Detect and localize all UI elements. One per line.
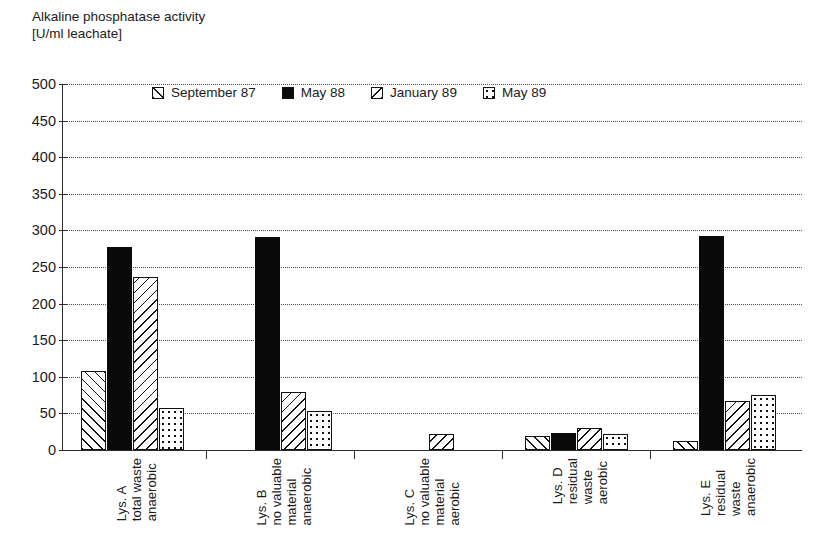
category-label-line: Lys. D	[550, 458, 565, 504]
bar-lys-e-january-89	[725, 401, 750, 450]
category-label-lys-c: Lys. Cno valuablematerialaerobic	[402, 458, 462, 526]
category-label-line: Lys. C	[402, 458, 417, 526]
title-line-2: [U/ml leachate]	[32, 25, 205, 42]
chart-root: Alkaline phosphatase activity [U/ml leac…	[0, 0, 837, 559]
y-axis-label-100: 100	[10, 370, 56, 385]
legend-label: May 88	[301, 86, 345, 100]
category-label-line: material	[432, 458, 447, 526]
category-label-line: aerobic	[595, 458, 610, 504]
bar-lys-b-may-88	[255, 237, 280, 450]
y-axis-label-250: 250	[10, 260, 56, 275]
legend-item-may-88[interactable]: May 88	[282, 86, 345, 100]
y-axis-label-450: 450	[10, 114, 56, 129]
y-axis-label-300: 300	[10, 223, 56, 238]
x-tick-1	[206, 450, 207, 459]
bar-lys-d-september-87	[525, 436, 550, 450]
bar-lys-e-may-88	[699, 236, 724, 450]
y-tick-350	[59, 194, 67, 195]
plot-area	[62, 84, 802, 450]
y-axis-label-0: 0	[10, 443, 56, 458]
y-tick-450	[59, 121, 67, 122]
bar-lys-d-january-89	[577, 428, 602, 450]
bar-group-lys-a	[81, 84, 184, 450]
y-axis-label-400: 400	[10, 150, 56, 165]
legend-item-september-87[interactable]: September 87	[152, 86, 256, 100]
legend-swatch-icon	[371, 87, 383, 99]
category-label-line: anaerobic	[299, 458, 314, 526]
bar-lys-a-may-88	[107, 247, 132, 450]
bar-lys-c-january-89	[429, 434, 454, 450]
legend-swatch-icon	[282, 87, 294, 99]
y-tick-250	[59, 267, 67, 268]
category-label-line: waste	[580, 458, 595, 504]
category-label-line: material	[284, 458, 299, 526]
x-tick-3	[502, 450, 503, 459]
y-tick-300	[59, 230, 67, 231]
title-line-1: Alkaline phosphatase activity	[32, 8, 205, 25]
chart-legend: September 87May 88January 89May 89	[152, 86, 546, 100]
category-label-line: residual	[713, 458, 728, 516]
bar-group-lys-d	[525, 84, 628, 450]
bar-lys-a-september-87	[81, 371, 106, 450]
bar-group-lys-b	[229, 84, 332, 450]
x-tick-2	[354, 450, 355, 459]
legend-swatch-icon	[483, 87, 495, 99]
legend-label: September 87	[171, 86, 256, 100]
category-label-line: residual	[565, 458, 580, 504]
y-tick-150	[59, 340, 67, 341]
category-label-line: no valuable	[269, 458, 284, 526]
x-axis	[62, 450, 802, 451]
category-label-line: anaerobic	[743, 458, 758, 516]
bar-lys-e-september-87	[673, 441, 698, 450]
y-tick-400	[59, 157, 67, 158]
category-label-lys-b: Lys. Bno valuablematerialanaerobic	[254, 458, 314, 526]
category-label-line: total waste	[129, 458, 144, 521]
category-label-lys-e: Lys. Eresidualwasteanaerobic	[698, 458, 758, 516]
y-axis	[62, 84, 63, 450]
y-axis-label-500: 500	[10, 77, 56, 92]
bar-lys-d-may-88	[551, 433, 576, 450]
legend-item-january-89[interactable]: January 89	[371, 86, 457, 100]
category-label-line: waste	[728, 458, 743, 516]
category-label-lys-d: Lys. Dresidualwasteaerobic	[550, 458, 610, 504]
y-axis-label-50: 50	[10, 406, 56, 421]
chart-title: Alkaline phosphatase activity [U/ml leac…	[32, 8, 205, 42]
category-label-lys-a: Lys. Atotal wasteanaerobic	[114, 458, 159, 521]
legend-label: January 89	[390, 86, 457, 100]
y-tick-200	[59, 304, 67, 305]
x-tick-4	[650, 450, 651, 459]
category-label-line: Lys. E	[698, 458, 713, 516]
category-label-line: Lys. B	[254, 458, 269, 526]
category-label-line: anaerobic	[144, 458, 159, 521]
bar-group-lys-e	[673, 84, 776, 450]
bar-lys-d-may-89	[603, 434, 628, 450]
bar-lys-a-january-89	[133, 277, 158, 450]
bar-lys-e-may-89	[751, 395, 776, 450]
category-label-line: no valuable	[417, 458, 432, 526]
category-label-line: aerobic	[447, 458, 462, 526]
bar-lys-b-may-89	[307, 411, 332, 450]
legend-item-may-89[interactable]: May 89	[483, 86, 546, 100]
y-tick-500	[59, 84, 67, 85]
y-axis-label-200: 200	[10, 297, 56, 312]
y-tick-50	[59, 413, 67, 414]
legend-label: May 89	[502, 86, 546, 100]
y-axis-label-150: 150	[10, 333, 56, 348]
legend-swatch-icon	[152, 87, 164, 99]
category-label-line: Lys. A	[114, 458, 129, 521]
y-axis-label-350: 350	[10, 187, 56, 202]
y-tick-100	[59, 377, 67, 378]
bar-group-lys-c	[377, 84, 480, 450]
bar-lys-a-may-89	[159, 408, 184, 450]
bar-lys-b-january-89	[281, 392, 306, 450]
